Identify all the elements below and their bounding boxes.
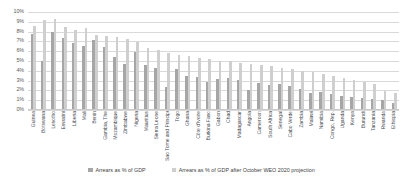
y-axis-tick-label: 2% [16, 88, 24, 93]
x-axis-label-cell: South Africa [265, 111, 275, 163]
x-axis-label: Gabon [216, 111, 221, 126]
x-axis-label: Burundi [361, 111, 366, 128]
x-axis-label: Guinea [31, 111, 36, 127]
x-axis-label: Botswana [41, 111, 46, 133]
x-axis-label: Gambia, The [103, 111, 108, 140]
x-axis-label: Eswatini [61, 111, 66, 130]
y-axis-tick-label: 5% [16, 58, 24, 63]
x-axis-label: Cabo Verde [288, 111, 293, 137]
bar [322, 74, 325, 109]
legend-label: Arrears as % of GDP [95, 167, 145, 173]
x-axis-label: Liberia [72, 111, 77, 126]
x-axis-label-cell: Gambia, The [100, 111, 110, 163]
x-axis-label-cell: Mali [80, 111, 90, 163]
bar [64, 27, 67, 109]
bar [116, 37, 119, 109]
bar [229, 61, 232, 109]
bar-group [69, 12, 79, 109]
bar [126, 39, 129, 109]
bar-group [100, 12, 110, 109]
x-axis-label-cell: Angola [245, 111, 255, 163]
bar [157, 50, 160, 109]
x-axis-label: Ethiopia [391, 111, 396, 129]
bar-group [203, 12, 213, 109]
bar [394, 93, 397, 109]
x-axis-label-cell: Burundi [358, 111, 368, 163]
bar [33, 26, 36, 109]
x-axis-label: Tanzania [371, 111, 376, 131]
x-axis-label: Sierra Leone [154, 111, 159, 140]
bar-group [276, 12, 286, 109]
bar-group [368, 12, 378, 109]
bar [54, 19, 57, 109]
x-axis-label-cell: Tanzania [368, 111, 378, 163]
y-axis-tick-label: 7% [16, 39, 24, 44]
x-axis-label: Senegal [278, 111, 283, 129]
x-axis-label: Rwanda [381, 111, 386, 129]
y-axis-tick-label: 1% [16, 97, 24, 102]
x-axis-label: Nigeria [134, 111, 139, 127]
x-axis-label: Uganda [340, 111, 345, 129]
bar-group [172, 12, 182, 109]
x-axis-label: Togo [175, 111, 180, 122]
x-axis-label-cell: Cameroon [255, 111, 265, 163]
x-axis-label: Burkina Faso [206, 111, 211, 140]
x-axis-label-cell: Zimbabwe [121, 111, 131, 163]
x-axis-label: Benin [92, 111, 97, 124]
x-axis-label-cell: Kenya [348, 111, 358, 163]
bar-group [80, 12, 90, 109]
x-axis-label-cell: Malawi [306, 111, 316, 163]
x-axis-label-cell: Burkina Faso [203, 111, 213, 163]
x-axis-label: Mauritius [144, 111, 149, 131]
chart-legend: Arrears as % of GDPArrears as % of GDP a… [0, 167, 403, 173]
y-axis-tick-label: 6% [16, 48, 24, 53]
x-axis-label: Zambia [299, 111, 304, 128]
x-axis-label: Zimbabwe [123, 111, 128, 134]
bar-group [90, 12, 100, 109]
x-axis-label-cell: Ethiopia [389, 111, 399, 163]
y-axis-tick-label: 8% [16, 29, 24, 34]
bar-group [358, 12, 368, 109]
y-axis-tick-label: 10% [14, 9, 25, 14]
bar-chart: 10%9%8%7%6%5%4%3%2%1%0% GuineaBotswanaLe… [0, 0, 403, 186]
bar-group [131, 12, 141, 109]
bar-group [59, 12, 69, 109]
x-axis-label-cell: Mozambique [111, 111, 121, 163]
x-axis-label-cell: Botswana [38, 111, 48, 163]
x-axis-label-cell: Ghana [183, 111, 193, 163]
bar [312, 72, 315, 109]
bar-group [296, 12, 306, 109]
x-axis-label: Ghana [185, 111, 190, 126]
bar [136, 42, 139, 109]
x-axis-label-cell: Eswatini [59, 111, 69, 163]
y-axis-tick-label: 4% [16, 68, 24, 73]
bar [208, 59, 211, 109]
bar-group [234, 12, 244, 109]
bar [373, 84, 376, 109]
bar [353, 80, 356, 109]
legend-item[interactable]: Arrears as % of GDP after October WEO 20… [172, 167, 315, 173]
x-axis-label-cell: Madagascar [234, 111, 244, 163]
x-axis-label-cell: Mauritius [141, 111, 151, 163]
bar [250, 64, 253, 109]
x-axis-label-cell: Uganda [337, 111, 347, 163]
x-axis-label-cell: Benin [90, 111, 100, 163]
bar [105, 36, 108, 109]
bar [188, 56, 191, 109]
x-axis-label: Lesotho [51, 111, 56, 129]
x-axis-label-cell: Chad [224, 111, 234, 163]
y-axis-tick-label: 9% [16, 19, 24, 24]
x-axis-label-cell: Liberia [69, 111, 79, 163]
x-axis-label-cell: Senegal [276, 111, 286, 163]
y-axis-tick-label: 0% [16, 107, 24, 112]
x-axis-label: Sao Tome and Principe [165, 111, 170, 161]
legend-swatch-icon [172, 168, 177, 173]
bar [219, 61, 222, 110]
legend-item[interactable]: Arrears as % of GDP [88, 167, 145, 173]
bar-group [379, 12, 389, 109]
bar [270, 66, 273, 109]
x-axis-label: Malawi [309, 111, 314, 127]
bar-group [348, 12, 358, 109]
x-axis-label-cell: Sierra Leone [152, 111, 162, 163]
bar-group [28, 12, 38, 109]
